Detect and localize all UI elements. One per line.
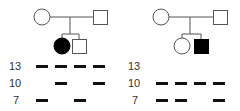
gel-band — [213, 82, 225, 85]
son-affected-male-symbol — [195, 40, 209, 54]
family-2-gel-bands — [156, 82, 225, 102]
gel-band — [156, 82, 168, 85]
band-size-label: 13 — [9, 60, 21, 72]
band-size-label: 10 — [9, 77, 21, 89]
family-1-pedigree — [34, 9, 108, 54]
gel-band — [55, 82, 67, 85]
daughter-affected-female-symbol — [54, 38, 70, 54]
gel-band — [36, 99, 48, 102]
gel-band — [194, 82, 206, 85]
family-2-gel-labels: 13 10 7 — [128, 60, 140, 106]
family-2-pedigree — [153, 9, 228, 54]
gel-band — [74, 99, 86, 102]
son-unaffected-male-symbol — [73, 40, 87, 54]
mother-unaffected-female-symbol — [153, 9, 169, 25]
daughter-unaffected-female-symbol — [174, 38, 190, 54]
gel-band — [175, 99, 187, 102]
band-size-label: 13 — [128, 60, 140, 72]
gel-band — [55, 65, 67, 68]
band-size-label: 7 — [13, 94, 19, 106]
father-unaffected-male-symbol — [214, 11, 228, 25]
band-size-label: 10 — [128, 77, 140, 89]
mother-unaffected-female-symbol — [34, 9, 50, 25]
band-size-label: 7 — [132, 94, 138, 106]
gel-band — [74, 65, 86, 68]
gel-band — [213, 99, 225, 102]
pedigree-gel-figure: 13 10 7 13 10 7 — [0, 0, 240, 111]
gel-band — [93, 65, 105, 68]
family-1-gel-bands — [36, 65, 105, 102]
gel-band — [175, 82, 187, 85]
gel-band — [93, 82, 105, 85]
family-1-gel-labels: 13 10 7 — [9, 60, 21, 106]
gel-band — [36, 65, 48, 68]
gel-band — [156, 99, 168, 102]
father-unaffected-male-symbol — [94, 11, 108, 25]
